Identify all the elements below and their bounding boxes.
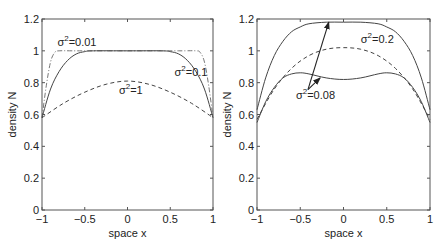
figure: −1−0.500.5100.20.40.60.811.2space xdensi…: [0, 0, 447, 245]
series-line: [257, 48, 430, 120]
series-line: [257, 73, 430, 123]
annotation-label: σ2=0.08: [296, 87, 335, 101]
y-tick-label: 1.2: [24, 13, 39, 25]
left-plot: −1−0.500.5100.20.40.60.811.2space xdensi…: [6, 13, 216, 239]
y-tick-label: 0.4: [24, 140, 39, 152]
x-tick-label: 1: [210, 213, 216, 225]
x-axis-label: space x: [325, 227, 363, 239]
y-tick-label: 1: [248, 45, 254, 57]
x-axis-label: space x: [109, 227, 147, 239]
y-tick-label: 0.6: [239, 109, 254, 121]
y-tick-label: 0: [248, 204, 254, 216]
y-tick-label: 0.8: [24, 77, 39, 89]
y-tick-label: 1.2: [239, 13, 254, 25]
annotation-label: σ2=0.2: [361, 31, 394, 45]
y-tick-label: 1: [33, 45, 39, 57]
x-tick-label: 1: [427, 213, 433, 225]
x-tick-label: 0: [340, 213, 346, 225]
x-tick-label: 0.5: [163, 213, 178, 225]
annotation-label: σ2=1: [119, 82, 143, 96]
annotation-label: σ2=0.1: [175, 64, 208, 78]
y-tick-label: 0.2: [24, 172, 39, 184]
y-tick-label: 0.8: [239, 77, 254, 89]
y-axis-label: density N: [221, 92, 233, 138]
x-tick-label: −0.5: [289, 213, 311, 225]
y-tick-label: 0.6: [24, 109, 39, 121]
y-tick-label: 0.4: [239, 140, 254, 152]
annotation-label: σ2=0.01: [57, 34, 96, 48]
y-axis-label: density N: [6, 92, 18, 138]
series-line: [257, 22, 430, 110]
y-tick-label: 0.2: [239, 172, 254, 184]
right-plot: −1−0.500.5100.20.40.60.811.2space xdensi…: [221, 13, 433, 239]
x-tick-label: 0.5: [379, 213, 394, 225]
y-tick-label: 0: [33, 204, 39, 216]
x-tick-label: 0: [124, 213, 130, 225]
x-tick-label: −0.5: [74, 213, 96, 225]
